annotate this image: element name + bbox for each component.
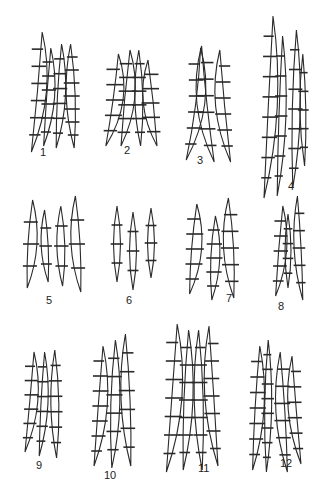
spore-outline xyxy=(275,352,287,472)
figure-label: 7 xyxy=(226,292,232,304)
figure-label: 4 xyxy=(288,180,294,192)
spore-group-6 xyxy=(111,206,158,290)
figure-label: 8 xyxy=(278,300,284,312)
spore-outline xyxy=(264,16,278,198)
spore-group-2 xyxy=(104,50,161,146)
spore-group-8 xyxy=(273,196,306,300)
spore-group-3 xyxy=(185,46,233,162)
figure-label: 3 xyxy=(197,154,203,166)
figure-label: 12 xyxy=(280,457,292,469)
figure-label: 5 xyxy=(46,294,52,306)
spore-drawings xyxy=(0,0,325,487)
spore-outline xyxy=(121,334,131,466)
figure-label: 1 xyxy=(40,146,46,158)
spore-outline xyxy=(31,32,47,152)
figure-label: 11 xyxy=(198,462,209,474)
figure-label: 9 xyxy=(36,459,42,471)
spore-figure: 123456789101112 xyxy=(0,0,325,487)
spore-group-5 xyxy=(23,196,85,292)
figure-label: 6 xyxy=(126,294,132,306)
spore-group-10 xyxy=(91,334,135,468)
figure-label: 2 xyxy=(124,144,130,156)
spore-group-7 xyxy=(185,198,239,300)
figure-label: 10 xyxy=(104,469,116,481)
spore-group-12 xyxy=(249,340,303,472)
spore-group-11 xyxy=(164,324,221,472)
spore-outline xyxy=(265,340,272,472)
spore-group-9 xyxy=(23,350,63,458)
spore-outline xyxy=(111,340,120,468)
spore-group-4 xyxy=(261,16,308,198)
spore-group-1 xyxy=(29,32,80,152)
